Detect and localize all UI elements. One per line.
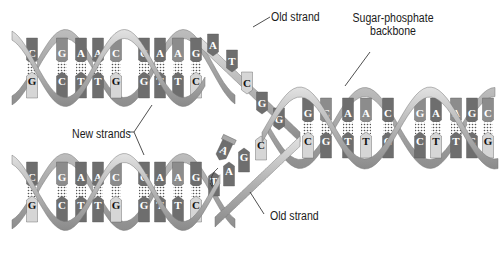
- svg-text:G: G: [58, 171, 67, 183]
- svg-text:G: G: [28, 75, 37, 87]
- svg-text:G: G: [192, 171, 201, 183]
- svg-text:G: G: [112, 199, 121, 211]
- svg-text:C: C: [112, 171, 120, 183]
- svg-text:A: A: [174, 47, 182, 59]
- nucleotide-base: G: [57, 162, 68, 188]
- nucleotide-base: A: [343, 98, 354, 124]
- svg-text:G: G: [416, 107, 425, 119]
- svg-text:C: C: [112, 47, 120, 59]
- nucleotide-base: G: [191, 162, 202, 188]
- svg-text:C: C: [192, 75, 200, 87]
- svg-text:G: G: [258, 97, 267, 109]
- svg-text:G: G: [58, 47, 67, 59]
- nucleotide-base: C: [57, 196, 68, 222]
- nucleotide-base: A: [214, 140, 232, 163]
- svg-text:C: C: [58, 199, 66, 211]
- svg-text:G: G: [468, 107, 477, 119]
- nucleotide-base: G: [139, 72, 150, 98]
- svg-text:C: C: [484, 107, 492, 119]
- svg-text:A: A: [344, 107, 352, 119]
- nucleotide-base: A: [76, 38, 87, 64]
- nucleotide-base: T: [93, 196, 104, 222]
- nucleotide-base: C: [415, 132, 426, 158]
- dna-replication-diagram: CGGCATATCGCGATATGCCGGCATATCGCGATATGCGCCG…: [0, 0, 502, 262]
- nucleotide-base: T: [451, 132, 462, 158]
- nucleotide-base: G: [239, 148, 250, 172]
- svg-text:G: G: [112, 75, 121, 87]
- svg-text:G: G: [140, 75, 149, 87]
- nucleotide-base: A: [361, 98, 372, 124]
- sugar-phosphate-backbone-label: Sugar-phosphate backbone: [345, 12, 442, 38]
- nucleotide-base: A: [155, 162, 166, 188]
- nucleotide-base: C: [483, 98, 494, 124]
- nucleotide-base: A: [224, 162, 235, 186]
- nucleotide-base: G: [321, 132, 332, 158]
- nucleotide-base: C: [242, 72, 253, 94]
- svg-text:C: C: [58, 75, 66, 87]
- nucleotide-base: A: [155, 38, 166, 64]
- svg-text:T: T: [174, 199, 182, 211]
- svg-text:A: A: [156, 171, 164, 183]
- nucleotide-base: G: [27, 196, 38, 222]
- svg-text:C: C: [257, 139, 265, 151]
- nucleotide-base: G: [27, 72, 38, 98]
- svg-text:C: C: [192, 199, 200, 211]
- nucleotide-base: G: [111, 72, 122, 98]
- svg-text:A: A: [174, 171, 182, 183]
- svg-text:C: C: [304, 135, 312, 147]
- nucleotide-base: G: [191, 38, 202, 64]
- svg-text:G: G: [192, 47, 201, 59]
- svg-text:G: G: [240, 151, 249, 163]
- svg-text:A: A: [362, 107, 370, 119]
- nucleotide-base: T: [361, 132, 372, 158]
- nucleotide-base: G: [57, 38, 68, 64]
- svg-text:T: T: [228, 55, 236, 67]
- svg-text:T: T: [94, 199, 102, 211]
- svg-text:G: G: [322, 135, 331, 147]
- sugar-phosphate-label-line2: backbone: [345, 25, 442, 38]
- nucleotide-base: A: [173, 38, 184, 64]
- svg-text:T: T: [362, 135, 370, 147]
- svg-text:C: C: [384, 107, 392, 119]
- svg-text:C: C: [416, 135, 424, 147]
- nucleotide-base: A: [76, 162, 87, 188]
- incoming-nucleotide: A: [213, 134, 236, 163]
- svg-text:T: T: [432, 135, 440, 147]
- nucleotide-base: G: [467, 98, 478, 124]
- svg-text:G: G: [304, 107, 313, 119]
- nucleotide-base: G: [139, 196, 150, 222]
- nucleotide-base: A: [173, 162, 184, 188]
- nucleotide-base: A: [208, 34, 219, 56]
- svg-text:A: A: [77, 47, 85, 59]
- svg-text:G: G: [140, 199, 149, 211]
- svg-text:A: A: [156, 47, 164, 59]
- nucleotide-base: T: [227, 50, 238, 72]
- svg-text:G: G: [28, 199, 37, 211]
- svg-text:T: T: [452, 135, 460, 147]
- nucleotide-base: T: [93, 72, 104, 98]
- nucleotide-base: G: [257, 92, 268, 114]
- old-strand-bottom-label: Old strand: [270, 210, 319, 223]
- nucleotide-base: T: [431, 132, 442, 158]
- svg-text:A: A: [209, 39, 217, 51]
- svg-text:T: T: [174, 75, 182, 87]
- old-strand-top-label: Old strand: [271, 11, 320, 24]
- svg-text:G: G: [484, 135, 493, 147]
- svg-text:C: C: [243, 77, 251, 89]
- nucleotide-base: G: [111, 196, 122, 222]
- nucleotide-base: C: [57, 72, 68, 98]
- svg-text:A: A: [225, 165, 233, 177]
- new-strands-label: New strands: [72, 128, 131, 141]
- nucleotide-base: A: [431, 98, 442, 124]
- nucleotide-base: C: [303, 132, 314, 158]
- svg-text:A: A: [432, 107, 440, 119]
- svg-text:T: T: [94, 75, 102, 87]
- nucleotide-base: C: [383, 98, 394, 124]
- svg-text:A: A: [77, 171, 85, 183]
- nucleotide-base: C: [256, 136, 267, 160]
